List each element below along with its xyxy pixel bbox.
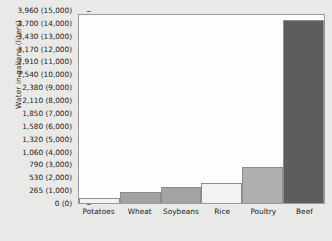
y-axis-tick-label: 1,320 (5,000): [14, 136, 72, 144]
y-axis-tick-label: 2,380 (9,000): [14, 84, 72, 92]
bar-slot: [283, 15, 324, 203]
plot-area: [78, 14, 325, 204]
bar-slot: [120, 15, 161, 203]
y-axis-tick-mark: [87, 204, 91, 205]
y-axis-tick-label: 3,170 (12,000): [14, 46, 72, 54]
y-axis-tick-label: 265 (1,000): [14, 187, 72, 195]
x-axis-label-beef: Beef: [284, 207, 325, 216]
bar-series: [79, 15, 324, 203]
bar-poultry: [242, 167, 283, 203]
y-axis-tick-label: 3,960 (15,000): [14, 7, 72, 15]
bar-slot: [242, 15, 283, 203]
bar-wheat: [120, 192, 161, 203]
y-axis-tick-label: 3,700 (14,000): [14, 20, 72, 28]
x-axis-category-labels: PotatoesWheatSoybeansRicePoultryBeef: [78, 207, 325, 216]
y-axis-tick-label: 1,060 (4,000): [14, 149, 72, 157]
y-axis-tick-mark: [87, 11, 91, 12]
bar-chart: Water in gallons (liters) 3,960 (15,000)…: [0, 0, 332, 241]
y-axis-tick-label: 1,850 (7,000): [14, 110, 72, 118]
y-axis-tick-label: 1,580 (6,000): [14, 123, 72, 131]
y-axis-tick-label: 2,910 (11,000): [14, 58, 72, 66]
x-axis-label-soybeans: Soybeans: [160, 207, 201, 216]
x-axis-label-wheat: Wheat: [119, 207, 160, 216]
x-axis-label-potatoes: Potatoes: [78, 207, 119, 216]
y-axis-tick-label: 2,110 (8,000): [14, 97, 72, 105]
bar-soybeans: [161, 187, 202, 203]
x-axis-label-rice: Rice: [202, 207, 243, 216]
bar-beef: [283, 20, 324, 203]
bar-slot: [79, 15, 120, 203]
bar-potatoes: [79, 198, 120, 203]
y-axis-tick-label: 530 (2,000): [14, 174, 72, 182]
y-axis-tick-label: 790 (3,000): [14, 161, 72, 169]
bar-slot: [161, 15, 202, 203]
y-axis-tick-labels: 3,960 (15,000)3,700 (14,000)3,430 (13,00…: [14, 8, 72, 208]
y-axis-tick-label: 3,430 (13,000): [14, 33, 72, 41]
y-axis-tick-label: 2,540 (10,000): [14, 71, 72, 79]
x-axis-label-poultry: Poultry: [243, 207, 284, 216]
y-axis-tick-label: 0 (0): [14, 200, 72, 208]
bar-rice: [201, 183, 242, 203]
bar-slot: [201, 15, 242, 203]
